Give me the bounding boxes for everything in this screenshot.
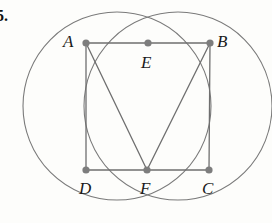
figure-canvas <box>0 0 272 223</box>
vertex-dot-A <box>82 39 89 46</box>
vertex-dot-E <box>144 39 151 46</box>
vertex-label-A: A <box>63 33 73 50</box>
vertex-label-B: B <box>217 33 227 50</box>
vertex-dot-C <box>205 166 212 173</box>
vertex-label-F: F <box>140 180 150 197</box>
geometry-figure: 5. A B C D E F <box>0 0 272 223</box>
left-circle <box>23 12 211 200</box>
vertex-label-C: C <box>202 180 213 197</box>
problem-number: 5. <box>0 8 8 24</box>
segment-BF <box>147 43 210 170</box>
vertex-label-D: D <box>79 180 91 197</box>
right-circle <box>84 12 272 200</box>
vertex-label-E: E <box>141 54 151 71</box>
vertex-dot-D <box>82 166 89 173</box>
vertex-dot-B <box>206 39 213 46</box>
segment-BC <box>209 43 210 170</box>
vertex-dot-F <box>143 166 150 173</box>
